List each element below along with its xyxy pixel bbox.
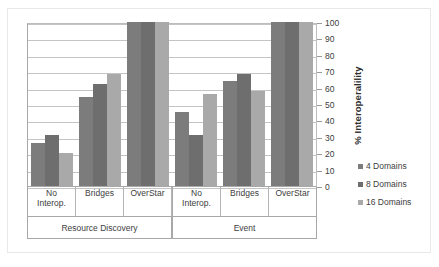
y-axis-tick-label: 100 [325,19,339,28]
y-axis-tick-label: 10 [325,166,334,175]
x-axis-category-line: Interop. [182,198,211,208]
y-axis-tick [317,187,322,188]
x-axis-category-line: Bridges [230,188,259,198]
y-axis-tick-label: 70 [325,68,334,77]
x-axis-category-line: Bridges [85,188,114,198]
bar [299,22,313,186]
x-axis-category-line: OverStar [275,188,309,198]
legend-swatch-icon [358,164,363,169]
x-axis-category-label: OverStar [269,187,317,216]
y-axis-tick-label: 0 [325,183,330,192]
y-axis-tick [317,171,322,172]
plot-area [27,23,317,187]
legend-item[interactable]: 16 Domains [358,193,436,211]
x-axis-category-label: Bridges [76,187,124,216]
bar-group [172,24,220,186]
bar [45,135,59,186]
y-axis-tick [317,105,322,106]
y-axis-tick-label: 50 [325,101,334,110]
legend-item-label: 4 Domains [366,161,407,171]
y-axis-tick-label: 20 [325,150,334,159]
y-axis-tick [317,56,322,57]
bar [271,22,285,186]
x-axis-group-label: Resource Discovery [27,217,172,238]
x-axis-category-label: NoInterop. [172,187,221,216]
y-axis-tick [317,89,322,90]
x-axis-group-row: Resource DiscoveryEvent [27,217,317,239]
y-axis-tick [317,23,322,24]
bar [223,81,237,186]
legend: 4 Domains8 Domains16 Domains [358,157,436,211]
legend-item-label: 8 Domains [366,179,407,189]
y-axis: 1009080706050403020100 [317,23,351,187]
y-axis-tick-label: 90 [325,35,334,44]
bar-group [268,24,316,186]
x-axis-category-label: NoInterop. [27,187,76,216]
bar [285,22,299,186]
bar-group [28,24,76,186]
y-axis-tick-label: 60 [325,84,334,93]
x-axis-category-line: No [46,188,57,198]
bar [189,135,203,186]
legend-swatch-icon [358,182,363,187]
bar-group [124,24,172,186]
bar-group [76,24,124,186]
y-axis-tick [317,72,322,73]
x-axis-category-label: OverStar [124,187,172,216]
bar [127,22,141,186]
bars-layer [28,24,316,186]
bar [175,112,189,186]
legend-swatch-icon [358,200,363,205]
legend-item[interactable]: 8 Domains [358,175,436,193]
bar [141,22,155,186]
bar [203,94,217,186]
x-axis-category-line: OverStar [130,188,164,198]
x-axis-category-row: NoInterop.BridgesOverStarNoInterop.Bridg… [27,187,317,217]
bar [251,91,265,186]
bar-group [220,24,268,186]
y-axis-tick-label: 40 [325,117,334,126]
bar [155,22,169,186]
bar-chart: 1009080706050403020100 % Interoperalilit… [0,0,439,267]
bar [237,74,251,186]
y-axis-title-label: % Interoperalility [352,66,363,144]
x-axis-group-label: Event [172,217,317,238]
y-axis-tick [317,154,322,155]
y-axis-tick-label: 30 [325,134,334,143]
x-axis-category-line: No [191,188,202,198]
y-axis-tick-label: 80 [325,52,334,61]
bar [79,97,93,186]
x-axis-category-line: Interop. [37,198,66,208]
x-axis-category-label: Bridges [221,187,269,216]
bar [59,153,73,186]
bar [31,143,45,186]
y-axis-tick [317,39,322,40]
bar [93,84,107,186]
y-axis-tick [317,121,322,122]
legend-item[interactable]: 4 Domains [358,157,436,175]
legend-item-label: 16 Domains [366,197,411,207]
y-axis-tick [317,138,322,139]
bar [107,74,121,186]
